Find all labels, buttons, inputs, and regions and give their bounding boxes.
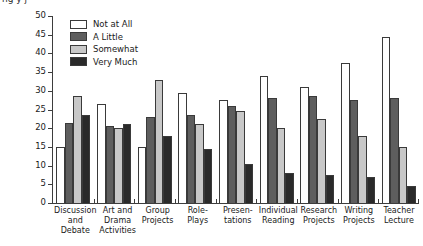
bar-group (175, 16, 216, 203)
legend-item-not-at-all: Not at All (70, 18, 174, 31)
x-tick-mark (256, 199, 257, 203)
bar[interactable] (178, 93, 187, 203)
bar[interactable] (138, 147, 147, 203)
bar[interactable] (367, 177, 376, 203)
bar[interactable] (219, 100, 228, 203)
bar[interactable] (309, 96, 318, 203)
bar-group (378, 16, 419, 203)
bar[interactable] (195, 124, 204, 203)
bar[interactable] (245, 164, 254, 203)
legend-label-a-little: A Little (93, 32, 123, 42)
y-tick-mark (48, 91, 52, 92)
bar-group (256, 16, 297, 203)
y-tick-mark (48, 128, 52, 129)
bar[interactable] (204, 149, 213, 203)
bar[interactable] (350, 100, 359, 203)
bar[interactable] (268, 98, 277, 203)
bar[interactable] (123, 124, 132, 203)
bar[interactable] (390, 98, 399, 203)
bar[interactable] (56, 147, 65, 203)
legend-swatch-icon-somewhat (70, 45, 87, 54)
y-tick-label: 15 (35, 141, 46, 152)
bar[interactable] (260, 76, 269, 203)
x-axis-labels: Discussion and DebateArt and Drama Activ… (53, 206, 419, 246)
x-tick-mark (94, 199, 95, 203)
y-tick-label: 30 (35, 85, 46, 96)
x-tick-mark (134, 199, 135, 203)
x-axis-label: Art and Drama Activities (98, 206, 138, 246)
x-axis-line (52, 203, 419, 204)
x-axis-label: Discussion and Debate (53, 206, 98, 246)
x-tick-mark (175, 199, 176, 203)
legend: Not at All A Little Somewhat Very Much (70, 17, 174, 69)
y-tick-label: 10 (35, 160, 46, 171)
y-tick-mark (48, 203, 52, 204)
x-axis-label: Research Projects (299, 206, 339, 246)
y-tick-label: 5 (41, 178, 46, 189)
legend-item-very-much: Very Much (70, 56, 174, 69)
bar[interactable] (163, 136, 172, 203)
y-tick-label: 20 (35, 122, 46, 133)
bar[interactable] (228, 106, 237, 203)
cropped-caption-fragment: ng y j (0, 0, 423, 10)
legend-swatch-icon-very-much (70, 57, 87, 66)
x-tick-mark (378, 199, 379, 203)
x-axis-label: Presen- tations (218, 206, 258, 246)
bar[interactable] (326, 175, 335, 203)
bar[interactable] (382, 37, 391, 203)
y-tick-mark (48, 72, 52, 73)
bar-group (338, 16, 379, 203)
y-tick-label: 45 (35, 29, 46, 40)
x-tick-mark (418, 199, 419, 203)
legend-label-very-much: Very Much (93, 57, 137, 67)
x-tick-mark (338, 199, 339, 203)
bar[interactable] (300, 87, 309, 203)
x-axis-label: Writing Projects (339, 206, 379, 246)
legend-swatch-icon-a-little (70, 32, 87, 41)
bar[interactable] (114, 128, 123, 203)
x-axis-label: Role- Plays (178, 206, 218, 246)
x-axis-label: Teacher Lecture (379, 206, 419, 246)
x-tick-mark (216, 199, 217, 203)
y-tick-label: 0 (41, 197, 46, 208)
y-tick-label: 50 (35, 10, 46, 21)
y-tick-mark (48, 147, 52, 148)
bar-chart: ng y j Percentage Reporting 504540353025… (0, 0, 423, 246)
y-tick-mark (48, 35, 52, 36)
y-tick-mark (48, 184, 52, 185)
legend-label-not-at-all: Not at All (93, 19, 132, 29)
bar[interactable] (407, 186, 416, 203)
bar[interactable] (399, 147, 408, 203)
bar-group (216, 16, 257, 203)
y-tick-label: 35 (35, 66, 46, 77)
legend-label-somewhat: Somewhat (93, 44, 138, 54)
bar[interactable] (317, 119, 326, 203)
bar[interactable] (146, 117, 155, 203)
y-tick-label: 40 (35, 47, 46, 58)
bar[interactable] (73, 96, 82, 203)
y-tick-mark (48, 110, 52, 111)
x-tick-mark (297, 199, 298, 203)
y-tick-mark (48, 53, 52, 54)
y-tick-mark (48, 166, 52, 167)
bar[interactable] (341, 63, 350, 203)
bar[interactable] (155, 80, 164, 203)
bar[interactable] (97, 104, 106, 203)
x-axis-label: Individual Reading (258, 206, 299, 246)
y-tick-label: 25 (35, 104, 46, 115)
bar[interactable] (82, 115, 91, 203)
bar[interactable] (106, 126, 115, 203)
bar[interactable] (358, 136, 367, 203)
bar[interactable] (285, 173, 294, 203)
bar[interactable] (277, 128, 286, 203)
bar[interactable] (236, 111, 245, 203)
caption-fragment-text: ng y j (2, 0, 423, 4)
bar[interactable] (187, 115, 196, 203)
legend-item-somewhat: Somewhat (70, 43, 174, 56)
y-tick-mark (48, 16, 52, 17)
x-axis-label: Group Projects (138, 206, 178, 246)
legend-swatch-icon-not-at-all (70, 20, 87, 29)
bar[interactable] (65, 123, 74, 203)
legend-item-a-little: A Little (70, 31, 174, 44)
bar-group (297, 16, 338, 203)
